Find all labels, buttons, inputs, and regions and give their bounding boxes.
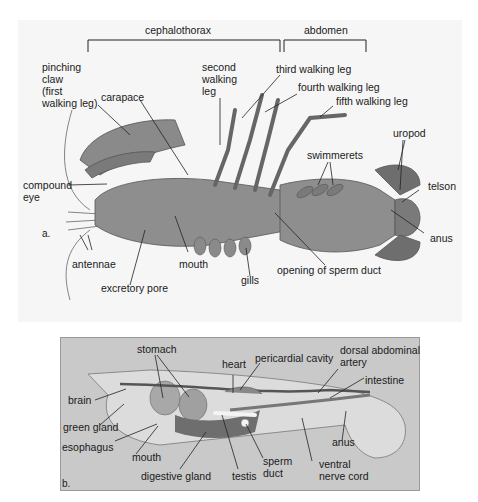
label-anus-internal: anus [332,436,355,448]
label-green-gland: green gland [63,421,118,433]
label-pericardial-cavity: pericardial cavity [255,352,333,364]
part-label-b: b. [62,478,70,490]
label-testis: testis [232,470,257,482]
label-dorsal-abdominal-artery: dorsal abdominal artery [340,344,420,368]
label-intestine: intestine [365,374,404,386]
label-sperm-duct: sperm duct [263,455,292,479]
label-ventral-nerve-cord: ventral nerve cord [319,458,369,482]
label-heart: heart [222,358,246,370]
label-esophagus: esophagus [62,441,113,453]
label-stomach: stomach [137,343,177,355]
label-digestive-gland: digestive gland [141,470,211,482]
label-brain: brain [68,394,91,406]
label-mouth-internal: mouth [132,451,161,463]
